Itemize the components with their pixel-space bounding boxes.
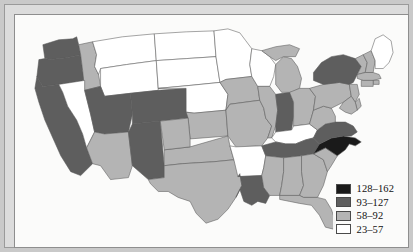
- legend-swatch-0: [336, 184, 351, 194]
- state-KS[interactable]: [186, 110, 228, 139]
- map-legend: 128–162 93–127 58–92 23–57: [333, 179, 398, 239]
- state-ND[interactable]: [154, 31, 216, 61]
- legend-label-1: 93–127: [357, 197, 389, 208]
- choropleth-figure: 128–162 93–127 58–92 23–57: [0, 0, 413, 252]
- legend-swatch-3: [336, 224, 351, 234]
- legend-label-2: 58–92: [357, 210, 384, 221]
- state-OK-panhandle[interactable]: [160, 118, 190, 150]
- legend-item-1[interactable]: 93–127: [336, 196, 394, 210]
- state-FL[interactable]: [280, 195, 336, 229]
- state-CT[interactable]: [361, 80, 373, 86]
- legend-item-2[interactable]: 58–92: [336, 209, 394, 223]
- legend-item-3[interactable]: 23–57: [336, 223, 394, 237]
- legend-item-0[interactable]: 128–162: [336, 182, 394, 196]
- legend-swatch-2: [336, 211, 351, 221]
- state-MS[interactable]: [262, 156, 284, 196]
- state-MA[interactable]: [357, 73, 381, 81]
- state-CO[interactable]: [130, 88, 188, 124]
- figure-inner-frame: 128–162 93–127 58–92 23–57: [14, 14, 409, 248]
- state-IN[interactable]: [276, 92, 294, 132]
- state-GA[interactable]: [300, 154, 328, 198]
- legend-label-3: 23–57: [357, 224, 384, 235]
- state-MN[interactable]: [214, 29, 252, 83]
- legend-swatch-1: [336, 197, 351, 207]
- state-RI[interactable]: [373, 80, 379, 84]
- state-NM[interactable]: [128, 121, 164, 179]
- figure-outer-frame: 128–162 93–127 58–92 23–57: [4, 4, 409, 248]
- state-MI[interactable]: [276, 57, 302, 93]
- legend-label-0: 128–162: [357, 183, 394, 194]
- state-NY[interactable]: [313, 55, 361, 85]
- state-AZ[interactable]: [87, 132, 133, 180]
